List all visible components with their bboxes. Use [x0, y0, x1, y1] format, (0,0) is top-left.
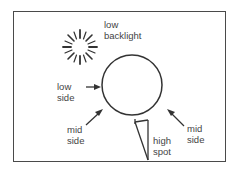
- label-high-spot: high spot: [153, 135, 171, 157]
- sun-icon: [63, 30, 97, 64]
- label-mid-side-left: mid side: [67, 124, 84, 146]
- arrow-mid-side-right-icon: [167, 109, 184, 126]
- label-low-backlight: low backlight: [104, 19, 142, 41]
- arrow-low-side-icon: [86, 84, 101, 90]
- label-low-side: low side: [57, 81, 74, 103]
- subject-circle: [102, 55, 162, 115]
- arrow-mid-side-left-icon: [86, 109, 103, 125]
- label-mid-side-right: mid side: [187, 123, 204, 145]
- spotlight-cone-icon: [135, 119, 148, 160]
